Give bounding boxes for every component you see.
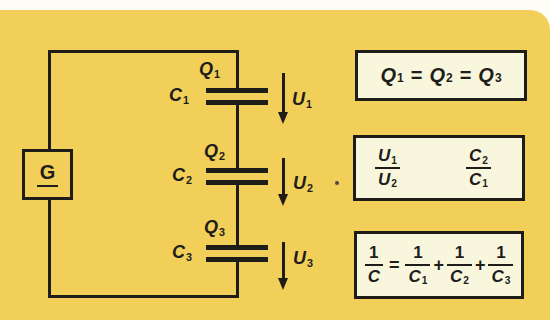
textbook-figure-page: G Q1 Q2 Q3 C1 C2 C3 U1 U2 U3 Q1 <box>0 0 550 320</box>
fraction-u1-u2-numerator: U1 <box>375 146 400 167</box>
voltage-arrow-2-shaft <box>282 158 285 195</box>
fraction-1-c2-denominator: C2 <box>447 264 472 287</box>
voltage-arrow-1-head-icon <box>278 112 288 124</box>
charge-label-3: Q3 <box>204 216 225 240</box>
charge-label-2: Q2 <box>204 140 225 164</box>
formula-box-reciprocal-capacitance: 1 C = 1 C1 + 1 C2 + 1 C3 <box>354 231 524 299</box>
voltage-label-3: U3 <box>293 247 313 271</box>
fraction-1-c1: 1 C1 <box>404 243 431 286</box>
fraction-1-c-numerator: 1 <box>366 243 381 264</box>
fraction-c2-c1: C2 C1 <box>465 146 492 189</box>
wire-left-lower <box>48 197 51 298</box>
fraction-1-c1-numerator: 1 <box>410 243 425 264</box>
wire-right-seg-2 <box>236 105 239 168</box>
wire-right-seg-3 <box>236 185 239 245</box>
voltage-var-2: U <box>293 173 306 193</box>
voltage-arrow-3-shaft <box>282 242 285 279</box>
generator-box: G <box>22 149 73 200</box>
capacitance-label-1: C1 <box>169 84 189 108</box>
fraction-c2-c1-denominator: C1 <box>466 167 491 190</box>
fraction-1-c3-numerator: 1 <box>493 243 508 264</box>
voltage-arrow-2-head-icon <box>278 194 288 206</box>
charge-sub-3: 3 <box>219 226 225 238</box>
fraction-1-c3: 1 C3 <box>487 243 514 286</box>
fraction-u1-u2-denominator: U2 <box>375 167 400 190</box>
fraction-1-c2-numerator: 1 <box>452 243 467 264</box>
capacitor-2-plate-bottom <box>206 180 268 185</box>
formula-box-voltage-ratio: U1 U2 C2 C1 <box>353 135 525 201</box>
print-speck <box>335 181 339 185</box>
fraction-1-c3-denominator: C3 <box>488 264 513 287</box>
wire-left-upper <box>48 50 51 151</box>
fraction-1-c: 1 C <box>364 243 384 286</box>
voltage-sub-3: 3 <box>307 257 313 269</box>
fb1-equals-2: = <box>460 64 472 87</box>
charge-var-1: Q <box>199 59 213 79</box>
capacitance-label-2: C2 <box>172 164 192 188</box>
fb1-equals-1: = <box>411 64 423 87</box>
wire-top <box>48 50 239 53</box>
fb1-term3-sub: 3 <box>495 71 502 85</box>
capacitor-3-plate-top <box>206 245 268 250</box>
capacitor-1-plate-bottom <box>206 100 268 105</box>
capacitance-var-1: C <box>169 85 182 105</box>
wire-bottom <box>48 295 239 298</box>
charge-sub-1: 1 <box>214 68 220 80</box>
fb1-term3-var: Q <box>478 64 494 87</box>
charge-var-3: Q <box>204 217 218 237</box>
wire-right-seg-1 <box>236 50 239 88</box>
fb3-equals: = <box>389 255 400 276</box>
charge-label-1: Q1 <box>199 58 220 82</box>
fb1-term2-sub: 2 <box>446 71 453 85</box>
fraction-u1-u2: U1 U2 <box>374 146 401 189</box>
capacitor-1-plate-top <box>206 88 268 93</box>
voltage-label-1: U1 <box>292 88 312 112</box>
capacitance-sub-2: 2 <box>186 174 192 186</box>
fb3-plus-1: + <box>433 255 444 276</box>
voltage-sub-2: 2 <box>307 182 313 194</box>
voltage-arrow-1-shaft <box>282 73 285 113</box>
voltage-arrow-3-head-icon <box>278 278 288 290</box>
voltage-var-1: U <box>292 89 305 109</box>
capacitance-var-3: C <box>172 242 185 262</box>
capacitor-3-plate-bottom <box>206 257 268 262</box>
capacitance-var-2: C <box>172 165 185 185</box>
fb1-term2-var: Q <box>429 64 445 87</box>
capacitor-2-plate-top <box>206 168 268 173</box>
fraction-1-c-denominator: C <box>365 264 383 287</box>
charge-var-2: Q <box>204 141 218 161</box>
fraction-c2-c1-numerator: C2 <box>466 146 491 167</box>
fb3-plus-2: + <box>475 255 486 276</box>
voltage-var-3: U <box>293 248 306 268</box>
capacitance-sub-1: 1 <box>183 94 189 106</box>
capacitance-sub-3: 3 <box>186 251 192 263</box>
fb1-term1-var: Q <box>380 64 396 87</box>
wire-right-seg-4 <box>236 262 239 298</box>
charge-sub-2: 2 <box>219 150 225 162</box>
fraction-1-c1-denominator: C1 <box>405 264 430 287</box>
generator-label: G <box>37 162 59 187</box>
formula-box-charge-equality: Q1 = Q2 = Q3 <box>355 50 527 101</box>
fb1-term1-sub: 1 <box>397 71 404 85</box>
fraction-1-c2: 1 C2 <box>446 243 473 286</box>
voltage-sub-1: 1 <box>306 98 312 110</box>
capacitance-label-3: C3 <box>172 241 192 265</box>
voltage-label-2: U2 <box>293 172 313 196</box>
